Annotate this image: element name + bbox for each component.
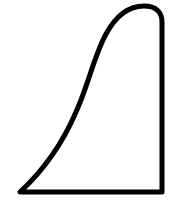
fin-shape-drawing — [0, 0, 173, 207]
fin-shape-outline — [20, 6, 162, 192]
